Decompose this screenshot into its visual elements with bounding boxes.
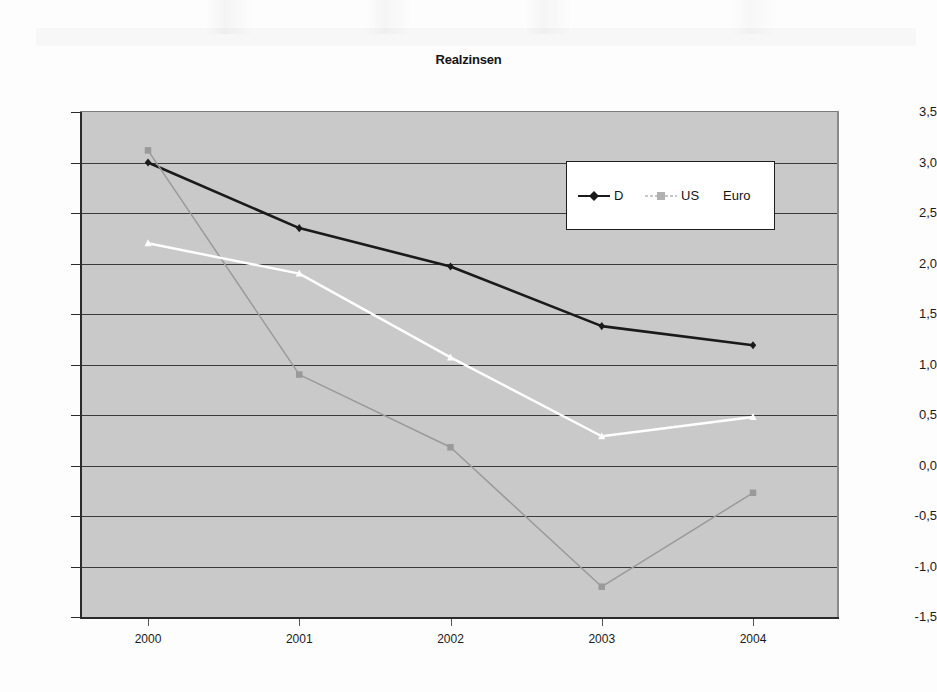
legend-label-d: D (614, 189, 623, 203)
x-tick-mark (148, 619, 149, 626)
x-tick-mark (753, 619, 754, 626)
legend-label-euro: Euro (723, 189, 750, 203)
legend-label-us: US (681, 189, 699, 203)
chart-figure: Realzinsen 3,53,02,52,01,51,00,50,0-0,5-… (0, 0, 937, 692)
legend-key-diamond-icon (577, 189, 611, 203)
x-tick-mark (451, 619, 452, 626)
x-tick-label: 2000 (103, 632, 193, 646)
x-tick-label: 2002 (406, 632, 496, 646)
x-tick-mark (299, 619, 300, 626)
x-tick-label: 2003 (557, 632, 647, 646)
legend-entry-euro[interactable]: Euro (723, 186, 750, 206)
legend-key-square-icon (644, 189, 678, 203)
legend-entry-d[interactable]: D (577, 186, 623, 206)
legend-entry-us[interactable]: US (644, 186, 699, 206)
x-tick-label: 2004 (708, 632, 798, 646)
chart-legend: D US Euro (566, 161, 775, 230)
x-axis: 20002001200220032004 (0, 0, 937, 692)
x-tick-label: 2001 (254, 632, 344, 646)
x-tick-mark (602, 619, 603, 626)
